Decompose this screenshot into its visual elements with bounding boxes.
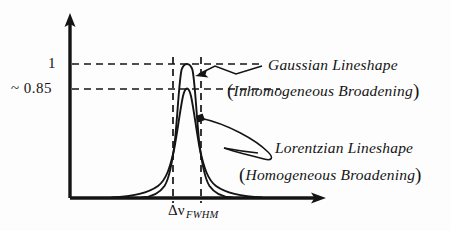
lorentzian-annotation-line2: (Homogeneous Broadening)	[239, 165, 422, 184]
fwhm-subscript: FWHM	[184, 209, 218, 220]
y-tick-label-085: ~ 0.85	[11, 81, 52, 96]
lorentzian-annotation-text: Homogeneous Broadening	[246, 166, 416, 183]
delta-symbol: Δ	[168, 202, 178, 218]
gaussian-annotation-text: Inhomogeneous Broadening	[234, 82, 413, 99]
gaussian-curve	[142, 64, 232, 198]
gaussian-close-paren: )	[413, 80, 420, 101]
lineshape-figure	[0, 0, 451, 231]
gaussian-annotation-line1: Gaussian Lineshape	[268, 57, 398, 73]
x-axis-label: ΔνFWHM	[168, 203, 219, 221]
gaussian-leader-line	[199, 66, 262, 74]
lorentzian-leader-line	[200, 118, 271, 160]
gaussian-annotation-line2: (Inhomogeneous Broadening)	[227, 81, 420, 100]
y-tick-label-1: 1	[48, 56, 56, 71]
lorentzian-annotation-line1: Lorentzian Lineshape	[275, 140, 413, 156]
lorentzian-leader-loop	[224, 148, 258, 153]
lorentzian-close-paren: )	[415, 164, 422, 185]
